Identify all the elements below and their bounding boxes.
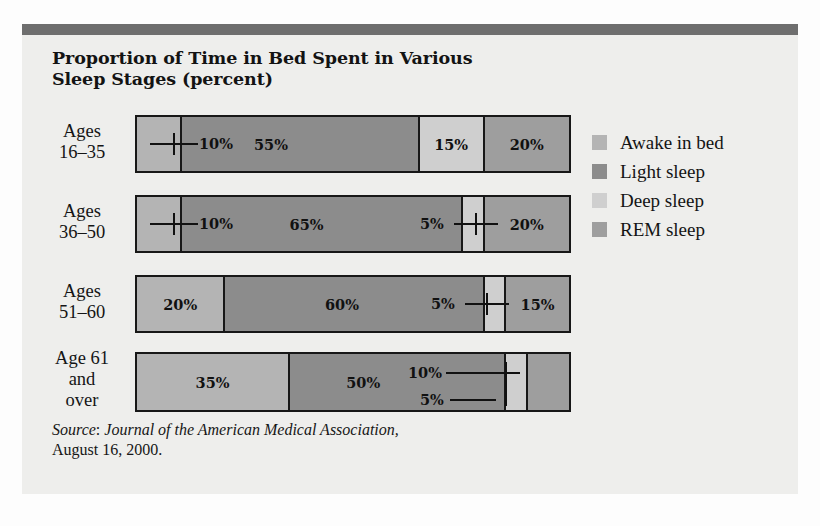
value-label-light: 65% bbox=[290, 216, 324, 233]
row-label-line-1: Ages bbox=[32, 121, 132, 142]
scanned-page-background: Proportion of Time in Bed Spent in Vario… bbox=[0, 0, 820, 526]
row-label-line-1: Age 61 bbox=[28, 348, 136, 369]
legend-item-light-sleep: Light sleep bbox=[592, 157, 792, 186]
legend-item-rem-sleep: REM sleep bbox=[592, 215, 792, 244]
legend: Awake in bed Light sleep Deep sleep REM … bbox=[592, 128, 792, 244]
value-label-deep-r2: 5% bbox=[420, 215, 444, 232]
value-label-rem-r4: 10% bbox=[408, 364, 442, 381]
value-label-deep-r4: 5% bbox=[420, 391, 444, 408]
leader-tick-deep-r3 bbox=[486, 293, 488, 315]
row-label-line-2: and bbox=[28, 369, 136, 390]
segment-deep-sleep bbox=[504, 354, 526, 410]
leader-tick-deep-r2 bbox=[475, 213, 477, 235]
legend-swatch-icon-awake bbox=[592, 135, 607, 150]
value-label-rem: 15% bbox=[521, 296, 555, 313]
segment-awake-in-bed: 20% bbox=[137, 277, 223, 331]
leader-tick-awake-r2 bbox=[173, 213, 175, 235]
segment-rem-sleep bbox=[526, 354, 569, 410]
legend-swatch-icon-rem bbox=[592, 222, 607, 237]
segment-light-sleep: 50% bbox=[288, 354, 504, 410]
value-label-deep-r3: 5% bbox=[431, 295, 455, 312]
source-publication: Journal of the American Medical Associat… bbox=[104, 421, 398, 438]
legend-label-awake: Awake in bed bbox=[620, 133, 724, 152]
legend-item-deep-sleep: Deep sleep bbox=[592, 186, 792, 215]
value-label-awake: 35% bbox=[196, 374, 230, 391]
source-line-2: August 16, 2000. bbox=[52, 440, 532, 460]
row-label-line-1: Ages bbox=[32, 201, 132, 222]
row-label-age-61-and-over: Age 61 and over bbox=[28, 348, 136, 411]
segment-rem-sleep: 15% bbox=[504, 277, 569, 331]
row-label-line-2: 51–60 bbox=[32, 302, 132, 323]
leader-tick-awake-r1 bbox=[173, 133, 175, 155]
legend-label-deep: Deep sleep bbox=[620, 191, 704, 210]
row-label-ages-51-60: Ages 51–60 bbox=[32, 281, 132, 323]
value-label-light: 60% bbox=[325, 296, 359, 313]
value-label-awake: 20% bbox=[163, 296, 197, 313]
row-label-line-1: Ages bbox=[32, 281, 132, 302]
row-label-line-2: 16–35 bbox=[32, 142, 132, 163]
value-label-awake-r2: 10% bbox=[199, 215, 233, 232]
value-label-light: 55% bbox=[254, 136, 288, 153]
source-line-1: Source: Journal of the American Medical … bbox=[52, 420, 532, 440]
row-label-line-3: over bbox=[28, 390, 136, 411]
legend-swatch-icon-light bbox=[592, 164, 607, 179]
segment-awake-in-bed: 35% bbox=[137, 354, 288, 410]
legend-swatch-icon-deep bbox=[592, 193, 607, 208]
row-label-line-2: 36–50 bbox=[32, 222, 132, 243]
legend-item-awake-in-bed: Awake in bed bbox=[592, 128, 792, 157]
leader-line-deep-r4 bbox=[450, 399, 496, 401]
leader-line-rem-r4 bbox=[446, 372, 520, 374]
source-prefix: Source bbox=[52, 421, 96, 438]
value-label-awake-r1: 10% bbox=[199, 135, 233, 152]
leader-tick-rem-r4 bbox=[505, 362, 507, 384]
segment-rem-sleep: 20% bbox=[483, 117, 569, 171]
legend-label-light: Light sleep bbox=[620, 162, 705, 181]
row-label-ages-16-35: Ages 16–35 bbox=[32, 121, 132, 163]
leader-tick-deep-r4 bbox=[505, 384, 507, 406]
chart-panel: Proportion of Time in Bed Spent in Vario… bbox=[22, 24, 798, 494]
value-label-light: 50% bbox=[346, 374, 380, 391]
segment-deep-sleep: 15% bbox=[418, 117, 483, 171]
legend-label-rem: REM sleep bbox=[620, 220, 705, 239]
value-label-deep: 15% bbox=[434, 136, 468, 153]
row-label-ages-36-50: Ages 36–50 bbox=[32, 201, 132, 243]
value-label-rem: 20% bbox=[510, 216, 544, 233]
value-label-rem: 20% bbox=[510, 136, 544, 153]
source-note: Source: Journal of the American Medical … bbox=[52, 420, 532, 460]
